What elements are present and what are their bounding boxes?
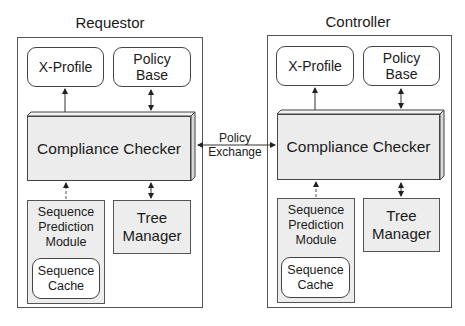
policy-base-label: Policy Base <box>383 50 420 82</box>
requestor-tree-manager: Tree Manager <box>113 200 191 254</box>
policy-exchange-label: Policy Exchange <box>200 131 270 159</box>
requestor-sequence-cache: Sequence Cache <box>32 258 100 299</box>
compliance-checker-label: Compliance Checker <box>287 138 431 156</box>
x-profile-label: X-Profile <box>39 59 93 75</box>
compliance-checker-label: Compliance Checker <box>37 140 181 158</box>
controller-policy-base: Policy Base <box>363 46 440 86</box>
controller-title: Controller <box>288 13 428 30</box>
requestor-compliance-checker: Compliance Checker <box>27 116 191 181</box>
requestor-policy-base: Policy Base <box>113 47 191 87</box>
tree-manager-label: Tree Manager <box>372 207 431 243</box>
sequence-cache-label: Sequence Cache <box>38 264 94 294</box>
controller-sequence-cache: Sequence Cache <box>281 257 350 298</box>
sequence-cache-label: Sequence Cache <box>287 263 343 293</box>
sequence-prediction-module-label: Sequence Prediction Module <box>28 205 104 250</box>
x-profile-label: X-Profile <box>288 58 342 74</box>
requestor-x-profile: X-Profile <box>27 47 104 87</box>
requestor-title: Requestor <box>40 14 180 31</box>
sequence-prediction-module-label: Sequence Prediction Module <box>278 203 354 248</box>
controller-compliance-checker: Compliance Checker <box>277 114 440 180</box>
controller-x-profile: X-Profile <box>276 46 354 86</box>
controller-tree-manager: Tree Manager <box>363 198 440 252</box>
policy-base-label: Policy Base <box>133 51 170 83</box>
tree-manager-label: Tree Manager <box>122 209 181 245</box>
